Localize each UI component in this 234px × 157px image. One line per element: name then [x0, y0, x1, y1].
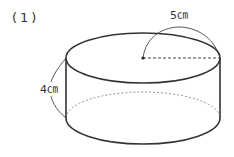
radius-arc	[143, 27, 220, 58]
height-label-overlay: 4㎝	[40, 84, 58, 96]
cylinder-figure	[0, 0, 234, 157]
bottom-ellipse-back	[66, 92, 220, 118]
bottom-ellipse-front	[66, 118, 220, 144]
